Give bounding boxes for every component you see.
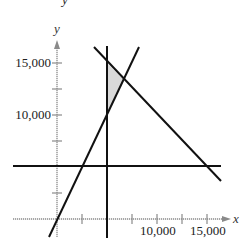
x-tick-label-10000: 10,000 <box>140 223 176 238</box>
cut-off-heading: y <box>60 0 68 7</box>
x-axis-label: x <box>232 211 239 226</box>
line-y-equals-2x <box>49 47 139 237</box>
line-x-plus-y-20000 <box>94 47 221 181</box>
x-tick-label-15000: 15,000 <box>190 223 226 238</box>
y-tick-label-15000: 15,000 <box>15 55 51 70</box>
y-tick-label-10000: 10,000 <box>15 107 51 122</box>
y-axis-label: y <box>52 21 60 36</box>
x-axis-arrow-icon <box>222 216 231 222</box>
chart-canvas: y 10,000 15,000 10,000 15,000 x y <box>0 0 243 239</box>
y-axis-arrow-icon <box>54 40 60 49</box>
